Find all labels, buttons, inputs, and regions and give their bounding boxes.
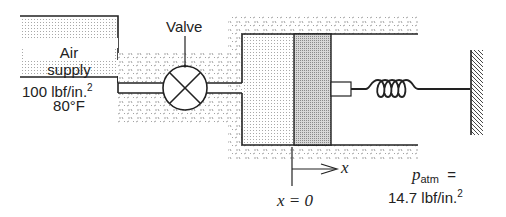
valve-label: Valve	[166, 18, 202, 35]
spring-icon	[351, 80, 470, 97]
air-label-line1: Air	[20, 44, 118, 61]
air-temperature-label: 80°F	[20, 97, 118, 114]
piston[interactable]	[294, 34, 331, 145]
x-origin-label: x = 0	[277, 192, 313, 209]
atm-pressure-value: 14.7 lbf/in.2	[388, 185, 463, 206]
valve-icon[interactable]	[163, 36, 207, 110]
piston-rod	[331, 82, 351, 96]
fixed-wall	[471, 50, 483, 135]
air-supply-label: Air supply	[20, 44, 118, 78]
air-label-line2: supply	[20, 61, 118, 78]
x-axis-label: x	[341, 159, 349, 176]
